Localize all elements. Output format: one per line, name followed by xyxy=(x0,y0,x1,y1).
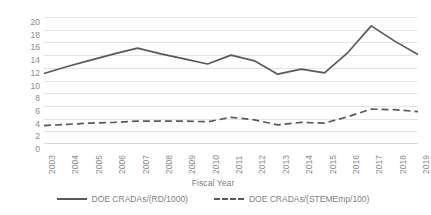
x-tick-label: 2016 xyxy=(352,155,361,174)
legend-swatch-dashed-icon xyxy=(214,198,244,200)
x-tick-label: 2006 xyxy=(118,155,127,174)
x-tick-label: 2005 xyxy=(95,155,104,174)
y-tick-label: 16 xyxy=(31,42,40,52)
y-tick-label: 4 xyxy=(35,119,40,129)
series-lines xyxy=(44,17,418,144)
x-tick-label: 2008 xyxy=(165,155,174,174)
y-tick-label: 6 xyxy=(35,106,40,116)
x-tick-label: 2004 xyxy=(71,155,80,174)
series-line-1 xyxy=(44,26,418,74)
y-tick-label: 0 xyxy=(35,144,40,154)
x-tick-label: 2003 xyxy=(48,155,57,174)
legend-swatch-solid-icon xyxy=(57,198,87,200)
x-tick-label: 2007 xyxy=(142,155,151,174)
y-tick-label: 20 xyxy=(31,17,40,27)
legend-item-1[interactable]: DOE CRADAs/(RD/1000) xyxy=(57,194,188,204)
x-tick-label: 2013 xyxy=(282,155,291,174)
x-tick-label: 2017 xyxy=(375,155,384,174)
y-tick-label: 12 xyxy=(31,68,40,78)
y-tick-label: 2 xyxy=(35,131,40,141)
legend-label: DOE CRADAs/(RD/1000) xyxy=(92,194,188,204)
x-tick-label: 2014 xyxy=(305,155,314,174)
legend-item-2[interactable]: DOE CRADAs/(STEMEmp/100) xyxy=(214,194,369,204)
x-tick-label: 2012 xyxy=(258,155,267,174)
x-tick-label: 2009 xyxy=(188,155,197,174)
x-axis-title: Fiscal Year xyxy=(0,178,426,188)
x-tick-label: 2010 xyxy=(212,155,221,174)
x-axis-tick-labels: 2003200420052006200720082009201020112012… xyxy=(44,146,418,180)
x-tick-label: 2015 xyxy=(329,155,338,174)
series-line-2 xyxy=(44,109,418,126)
y-tick-label: 8 xyxy=(35,93,40,103)
y-axis-tick-labels: 20181614121086420 xyxy=(22,12,40,146)
y-tick-label: 10 xyxy=(31,81,40,91)
x-tick-label: 2018 xyxy=(399,155,408,174)
x-tick-label: 2011 xyxy=(235,156,244,174)
chart-legend: DOE CRADAs/(RD/1000)DOE CRADAs/(STEMEmp/… xyxy=(0,194,426,204)
x-tick-label: 2019 xyxy=(422,155,431,174)
legend-label: DOE CRADAs/(STEMEmp/100) xyxy=(249,194,369,204)
plot-area xyxy=(44,17,418,144)
y-tick-label: 14 xyxy=(31,55,40,65)
y-tick-label: 18 xyxy=(31,30,40,40)
